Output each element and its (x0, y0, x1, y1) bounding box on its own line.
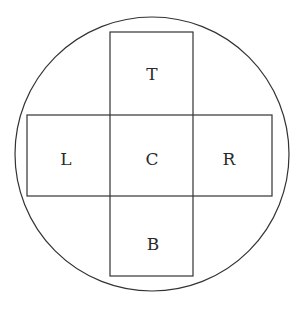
label-right: R (223, 149, 237, 169)
label-top: T (146, 64, 158, 84)
label-center: C (145, 149, 158, 169)
label-bottom: B (147, 234, 160, 254)
label-left: L (60, 149, 71, 169)
cross-diagram: T L C R B (0, 0, 304, 309)
